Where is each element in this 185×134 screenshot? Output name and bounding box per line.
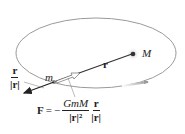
formula-leader bbox=[68, 78, 75, 97]
gravity-formula: F = − GmM |r|² r |r| bbox=[37, 98, 101, 123]
unit-label-leader bbox=[24, 82, 44, 88]
orbit-path bbox=[16, 18, 176, 88]
formula-equals: = bbox=[46, 105, 52, 116]
small-mass-label: m bbox=[45, 72, 53, 83]
unit-vector-arrow bbox=[24, 82, 54, 93]
unit-vector-label: r |r| bbox=[10, 65, 20, 90]
formula-lhs: F bbox=[37, 105, 44, 116]
unit-den: |r| bbox=[10, 78, 20, 90]
position-vector-label: r bbox=[103, 59, 108, 70]
formula-vec-num: r bbox=[93, 98, 100, 111]
formula-coef-den: |r|² bbox=[69, 111, 82, 123]
formula-vec-den: |r| bbox=[91, 111, 101, 123]
large-mass-label: M bbox=[142, 48, 151, 59]
formula-minus: − bbox=[54, 105, 60, 116]
unit-num: r bbox=[11, 65, 18, 78]
formula-coef-num: GmM bbox=[62, 98, 89, 111]
